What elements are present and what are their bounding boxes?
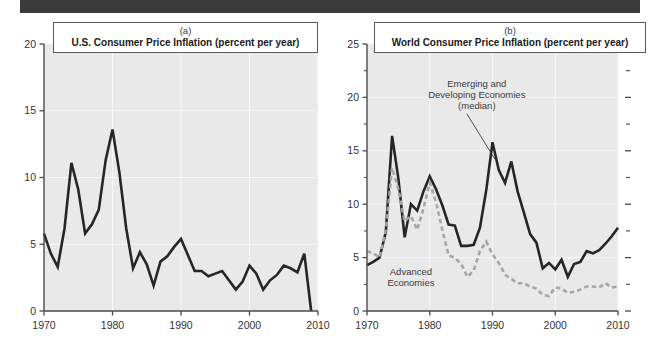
x-tick-label: 1970 bbox=[32, 319, 56, 331]
y-tick-label: 25 bbox=[347, 38, 359, 50]
panel-b-letter: (b) bbox=[381, 25, 639, 36]
panel-b-title: World Consumer Price Inflation (percent … bbox=[381, 36, 639, 49]
x-tick-label: 1980 bbox=[418, 319, 442, 331]
panel-a-title-box: (a) U.S. Consumer Price Inflation (perce… bbox=[53, 22, 318, 53]
y-tick-label: 0 bbox=[30, 305, 36, 317]
x-tick-label: 1970 bbox=[355, 319, 379, 331]
y-tick-label: 10 bbox=[24, 171, 36, 183]
y-tick-label: 15 bbox=[24, 104, 36, 116]
y-tick-label: 10 bbox=[347, 198, 359, 210]
panel-a-title: U.S. Consumer Price Inflation (percent p… bbox=[60, 36, 311, 49]
chart-panel-a: (a) U.S. Consumer Price Inflation (perce… bbox=[0, 0, 330, 345]
x-tick-label: 2010 bbox=[606, 319, 630, 331]
x-tick-label: 2000 bbox=[544, 319, 568, 331]
y-tick-label: 20 bbox=[347, 91, 359, 103]
panel-b-title-box: (b) World Consumer Price Inflation (perc… bbox=[374, 22, 646, 53]
x-tick-label: 1990 bbox=[169, 319, 193, 331]
x-tick-label: 1980 bbox=[101, 319, 125, 331]
y-tick-label: 20 bbox=[24, 38, 36, 50]
y-tick-label: 15 bbox=[347, 144, 359, 156]
y-tick-label: 5 bbox=[353, 251, 359, 263]
x-tick-label: 2010 bbox=[306, 319, 330, 331]
y-tick-label: 0 bbox=[353, 305, 359, 317]
annotation-advanced-label: AdvancedEconomies bbox=[387, 266, 434, 288]
x-tick-label: 2000 bbox=[238, 319, 262, 331]
panel-a-letter: (a) bbox=[60, 25, 311, 36]
x-tick-label: 1990 bbox=[481, 319, 505, 331]
y-tick-label: 5 bbox=[30, 238, 36, 250]
chart-panel-b: (b) World Consumer Price Inflation (perc… bbox=[330, 0, 659, 345]
